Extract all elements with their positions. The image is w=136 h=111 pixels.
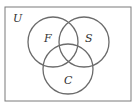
set-f-circle: [28, 17, 78, 67]
universe-label: U: [13, 12, 23, 25]
set-s-label: S: [85, 32, 93, 45]
venn-diagram: U F S C: [0, 0, 136, 111]
set-s-circle: [59, 17, 109, 67]
set-c-label: C: [64, 74, 73, 87]
set-f-label: F: [43, 32, 52, 45]
